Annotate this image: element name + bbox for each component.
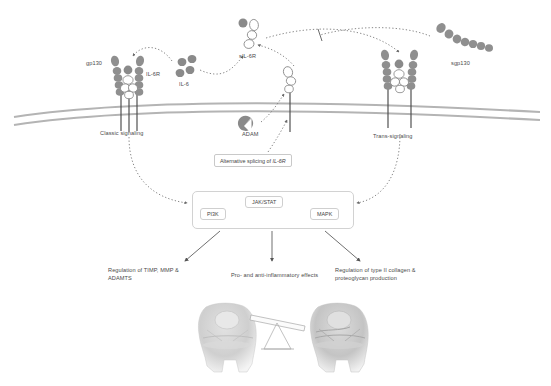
knee-joint-right bbox=[310, 303, 368, 372]
pathway-mapk[interactable]: MAPK bbox=[310, 208, 339, 220]
sil6r-soluble bbox=[239, 19, 260, 50]
label-il6r: IL-6R bbox=[146, 70, 160, 78]
splicing-prefix: Alternative splicing of bbox=[220, 158, 272, 164]
pathway-pi3k[interactable]: PI3K bbox=[200, 208, 226, 220]
label-adam: ADAM bbox=[242, 130, 259, 138]
balance-scale bbox=[250, 315, 305, 349]
solid-arrows-to-outcomes bbox=[185, 231, 360, 261]
figure-canvas: PI3K JAK/STAT MAPK Alternative splicing … bbox=[0, 0, 551, 386]
pathway-jak-stat[interactable]: JAK/STAT bbox=[245, 196, 283, 208]
outcome-timp: Regulation of TIMP, MMP & ADAMTS bbox=[108, 266, 200, 283]
label-gp130: gp130 bbox=[86, 59, 102, 67]
outcome-inflammatory: Pro- and anti-inflammatory effects bbox=[231, 271, 331, 279]
sgp130-molecule bbox=[434, 21, 493, 52]
label-il6: IL-6 bbox=[179, 80, 189, 88]
outcome-collagen: Regulation of type II collagen & proteog… bbox=[335, 266, 431, 283]
membrane-il6r-cleavage bbox=[282, 65, 297, 132]
cell-membrane bbox=[14, 103, 540, 125]
label-trans-signaling: Trans-signaling bbox=[373, 132, 413, 140]
il6-free-cytokines bbox=[176, 55, 197, 77]
trans-signaling-complex bbox=[380, 49, 419, 128]
knee-joint-left bbox=[198, 303, 256, 372]
label-sgp130: sgp130 bbox=[451, 59, 470, 67]
classic-signaling-complex bbox=[110, 55, 145, 132]
splicing-gene: IL-6R bbox=[272, 158, 285, 164]
label-classic-signaling: Classic signaling bbox=[100, 129, 143, 137]
alternative-splicing-box[interactable]: Alternative splicing of IL-6R bbox=[214, 154, 292, 167]
label-sil6r: sIL-6R bbox=[239, 52, 256, 60]
